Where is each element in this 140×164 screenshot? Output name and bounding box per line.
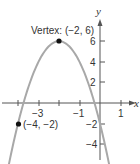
point-neg4-neg2 (16, 121, 21, 126)
x-tick-label: −3 (32, 108, 44, 119)
x-tick-label: −1 (73, 108, 85, 119)
vertex-label: Vertex: (−2, 6) (31, 25, 94, 36)
y-axis-label: y (95, 5, 101, 17)
y-tick-label: −2 (86, 119, 98, 130)
vertex-point (56, 38, 61, 43)
y-tick-label: −4 (86, 139, 98, 150)
parabola-graph: x y −3 −1 1 6 4 2 −2 −4 Vertex: (−2, 6) … (0, 0, 140, 164)
y-tick-label: 4 (90, 57, 96, 68)
y-tick-label: 6 (90, 36, 96, 47)
point-label: (−4, −2) (23, 119, 58, 130)
x-axis-label: x (133, 97, 139, 109)
y-tick-label: 2 (90, 77, 96, 88)
y-axis-arrow-icon (98, 19, 103, 26)
x-tick-label: 1 (118, 108, 124, 119)
